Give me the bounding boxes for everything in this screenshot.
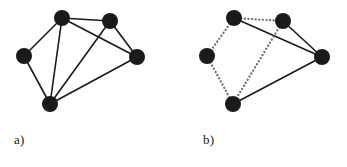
graph-node [16, 48, 32, 64]
graph-node [225, 96, 241, 112]
graph-node [54, 10, 70, 26]
graph-node [226, 10, 242, 26]
graph-node [129, 49, 145, 65]
graph-node [102, 13, 118, 29]
panel-b-label: b) [203, 132, 214, 148]
graph-node [199, 48, 215, 64]
graph-node [275, 13, 291, 29]
graph-node [42, 96, 58, 112]
panel-a-label: a) [14, 132, 25, 148]
graph-figure [0, 0, 347, 167]
figure-background [0, 0, 347, 167]
graph-node [314, 49, 330, 65]
